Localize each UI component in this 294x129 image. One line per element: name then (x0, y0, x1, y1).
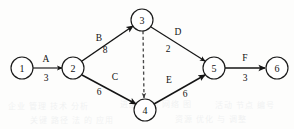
edge-label-B-duration: 8 (103, 45, 108, 55)
edge-label-E-duration: 6 (183, 89, 188, 99)
edge-label-F-name: F (242, 53, 247, 63)
edge-dummy-line (143, 31, 144, 98)
node-5-label: 5 (212, 63, 217, 74)
node-3-label: 3 (140, 15, 145, 26)
edge-label-C-name: C (112, 72, 118, 82)
edge-B-line (82, 26, 133, 61)
edge-label-E-name: E (166, 75, 172, 85)
edge-E-line (154, 75, 205, 104)
edge-label-A-duration: 3 (44, 73, 49, 83)
node-6-label: 6 (275, 63, 280, 74)
node-1-label: 1 (20, 63, 25, 74)
edge-label-F-duration: 3 (243, 73, 248, 83)
edge-label-B-name: B (96, 33, 102, 43)
edge-label-D-name: D (175, 27, 182, 37)
network-diagram-canvas: 企业 管理 技术 分析 进度 计划 网络 图 关键 路径 法 的 应用 资源 优… (0, 0, 294, 129)
edge-C-line (82, 75, 136, 104)
edge-label-C-duration: 6 (97, 87, 102, 97)
edge-label-A-name: A (43, 54, 50, 64)
node-2-label: 2 (71, 63, 76, 74)
nodes-group: 1 2 3 4 5 6 (11, 9, 288, 121)
network-graph: A 3 B 8 C 6 D 2 E 6 F 3 1 2 3 4 5 6 (0, 0, 294, 129)
node-4-label: 4 (143, 105, 148, 116)
edge-label-D-duration: 2 (166, 44, 171, 54)
